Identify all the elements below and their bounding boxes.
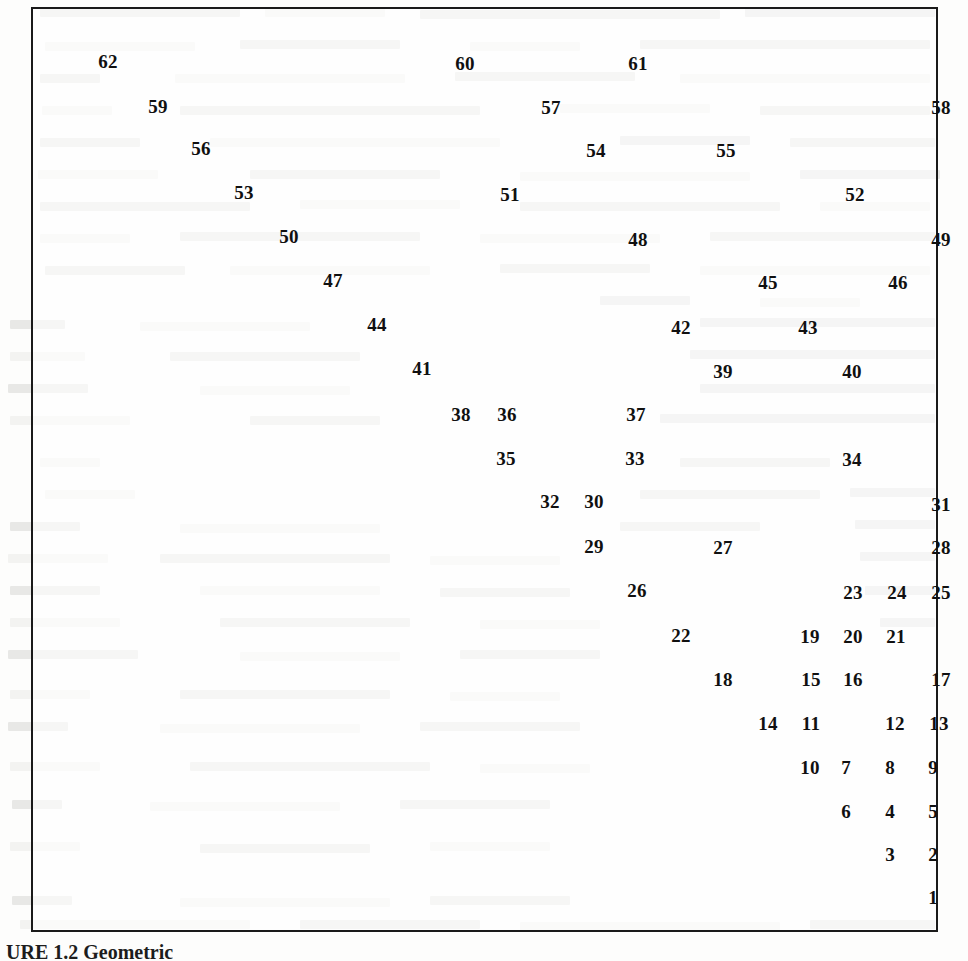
- scatter-point-label: 37: [626, 405, 645, 424]
- scatter-point-label: 58: [931, 98, 950, 117]
- scatter-point-label: 32: [540, 492, 559, 511]
- scatter-point-label: 7: [841, 758, 851, 777]
- scatter-point-label: 53: [234, 183, 253, 202]
- scatter-point-label: 57: [541, 98, 560, 117]
- scatter-point-label: 62: [98, 52, 117, 71]
- scatter-point-label: 4: [885, 802, 895, 821]
- scatter-point-label: 52: [845, 185, 864, 204]
- scatter-point-label: 39: [713, 362, 732, 381]
- scatter-point-label: 12: [885, 714, 904, 733]
- scatter-point-label: 47: [323, 271, 342, 290]
- scatter-point-label: 44: [367, 315, 386, 334]
- scatter-point-label: 43: [798, 318, 817, 337]
- scatter-point-label: 20: [843, 627, 862, 646]
- scatter-point-label: 61: [628, 54, 647, 73]
- scatter-point-label: 42: [671, 318, 690, 337]
- scatter-point-label: 54: [586, 141, 605, 160]
- scatter-point-label: 14: [758, 714, 777, 733]
- scatter-point-label: 51: [500, 185, 519, 204]
- scatter-point-label: 24: [887, 583, 906, 602]
- scatter-point-label: 18: [713, 670, 732, 689]
- scatter-point-label: 6: [841, 802, 851, 821]
- scatter-point-label: 11: [802, 714, 820, 733]
- scatter-point-label: 33: [625, 449, 644, 468]
- scatter-point-label: 2: [928, 845, 938, 864]
- scatter-point-label: 35: [496, 449, 515, 468]
- scatter-point-label: 59: [148, 97, 167, 116]
- scatter-plot-frame: 6260615957585654555351525048494745464442…: [31, 7, 938, 932]
- scatter-point-label: 9: [928, 758, 938, 777]
- scatter-point-label: 41: [412, 359, 431, 378]
- scatter-point-label: 28: [931, 538, 950, 557]
- scatter-point-label: 10: [800, 758, 819, 777]
- scatter-point-label: 49: [931, 230, 950, 249]
- scatter-point-label: 21: [886, 627, 905, 646]
- scatter-point-label: 56: [191, 139, 210, 158]
- scatter-point-label: 17: [931, 670, 950, 689]
- scatter-point-label: 40: [842, 362, 861, 381]
- scatter-point-label: 27: [713, 538, 732, 557]
- scatter-point-label: 31: [931, 495, 950, 514]
- scatter-point-label: 25: [931, 583, 950, 602]
- scatter-point-label: 22: [671, 626, 690, 645]
- scatter-point-label: 50: [279, 227, 298, 246]
- scatter-point-label: 29: [584, 537, 603, 556]
- scatter-point-label: 46: [888, 273, 907, 292]
- scatter-point-label: 55: [716, 141, 735, 160]
- scatter-point-label: 3: [885, 845, 895, 864]
- scatter-point-label: 8: [885, 758, 895, 777]
- scatter-point-label: 23: [843, 583, 862, 602]
- scatter-point-label: 48: [628, 230, 647, 249]
- scatter-point-label: 16: [843, 670, 862, 689]
- scatter-point-label: 36: [497, 405, 516, 424]
- scatter-point-label: 1: [928, 888, 938, 907]
- scatter-point-label: 13: [929, 714, 948, 733]
- scatter-point-label: 38: [451, 405, 470, 424]
- scatter-point-label: 34: [842, 450, 861, 469]
- scatter-point-label: 45: [758, 273, 777, 292]
- scatter-point-label: 26: [627, 581, 646, 600]
- figure-caption: URE 1.2 Geometric: [6, 941, 173, 961]
- scanned-page: 6260615957585654555351525048494745464442…: [0, 0, 968, 961]
- scatter-point-label: 5: [928, 802, 938, 821]
- scatter-point-label: 30: [584, 492, 603, 511]
- scatter-point-label: 15: [801, 670, 820, 689]
- scatter-point-label: 19: [800, 627, 819, 646]
- scatter-point-label: 60: [455, 54, 474, 73]
